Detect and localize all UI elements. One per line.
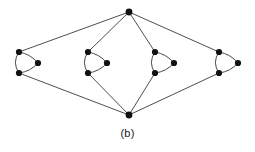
graph-arc-edge [88,63,107,73]
graph-arc-edge [155,63,174,73]
graph-vertex [16,49,22,55]
graph-vertex [152,49,158,55]
figure-caption: (b) [0,126,255,140]
arc-edge-layer [15,52,238,73]
graph-edge [88,73,129,115]
graph-edge [19,73,129,115]
graph-apex-vertex [126,9,133,16]
graph-arc-edge [155,52,174,63]
straight-edge-layer [19,12,219,115]
graph-apex-vertex [126,112,133,119]
graph-arc-edge [15,52,19,73]
graph-vertex [216,70,222,76]
graph-arc-edge [88,52,107,63]
graph-vertex [235,60,241,66]
graph-vertex [171,60,177,66]
graph-vertex [104,60,110,66]
graph-vertex [35,60,41,66]
graph-vertex [85,49,91,55]
figure-container: (b) [0,0,255,152]
graph-arc-edge [151,52,155,73]
graph-arc-edge [84,52,88,73]
graph-arc-edge [215,52,219,73]
graph-arc-edge [219,63,238,73]
vertex-layer [16,9,241,119]
graph-edge [88,12,129,52]
graph-edge [19,12,129,52]
graph-vertex [85,70,91,76]
graph-arc-edge [219,52,238,63]
graph-vertex [16,70,22,76]
graph-arc-edge [19,52,38,63]
graph-vertex [216,49,222,55]
graph-arc-edge [19,63,38,73]
graph-vertex [152,70,158,76]
